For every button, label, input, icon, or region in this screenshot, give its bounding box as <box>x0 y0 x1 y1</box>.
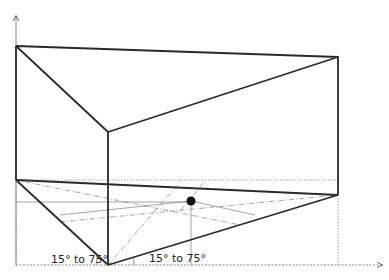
right-angle-label: 15° to 75° <box>149 252 206 265</box>
box-edges <box>16 46 338 265</box>
top-face <box>16 46 338 132</box>
left-angle-label: 15° to 75° <box>51 253 108 266</box>
axes <box>16 16 382 265</box>
solid-line-a <box>60 201 191 215</box>
right-angle-arc <box>133 257 134 265</box>
diagram-canvas: 15° to 75° 15° to 75° <box>0 0 389 280</box>
dashed-diag-4 <box>181 181 205 210</box>
solid-line-b <box>191 201 255 215</box>
dashed-diag-1 <box>16 180 240 225</box>
bottom-right-edge <box>108 195 338 265</box>
bottom-back-edge <box>16 180 338 195</box>
projected-point <box>187 197 196 206</box>
